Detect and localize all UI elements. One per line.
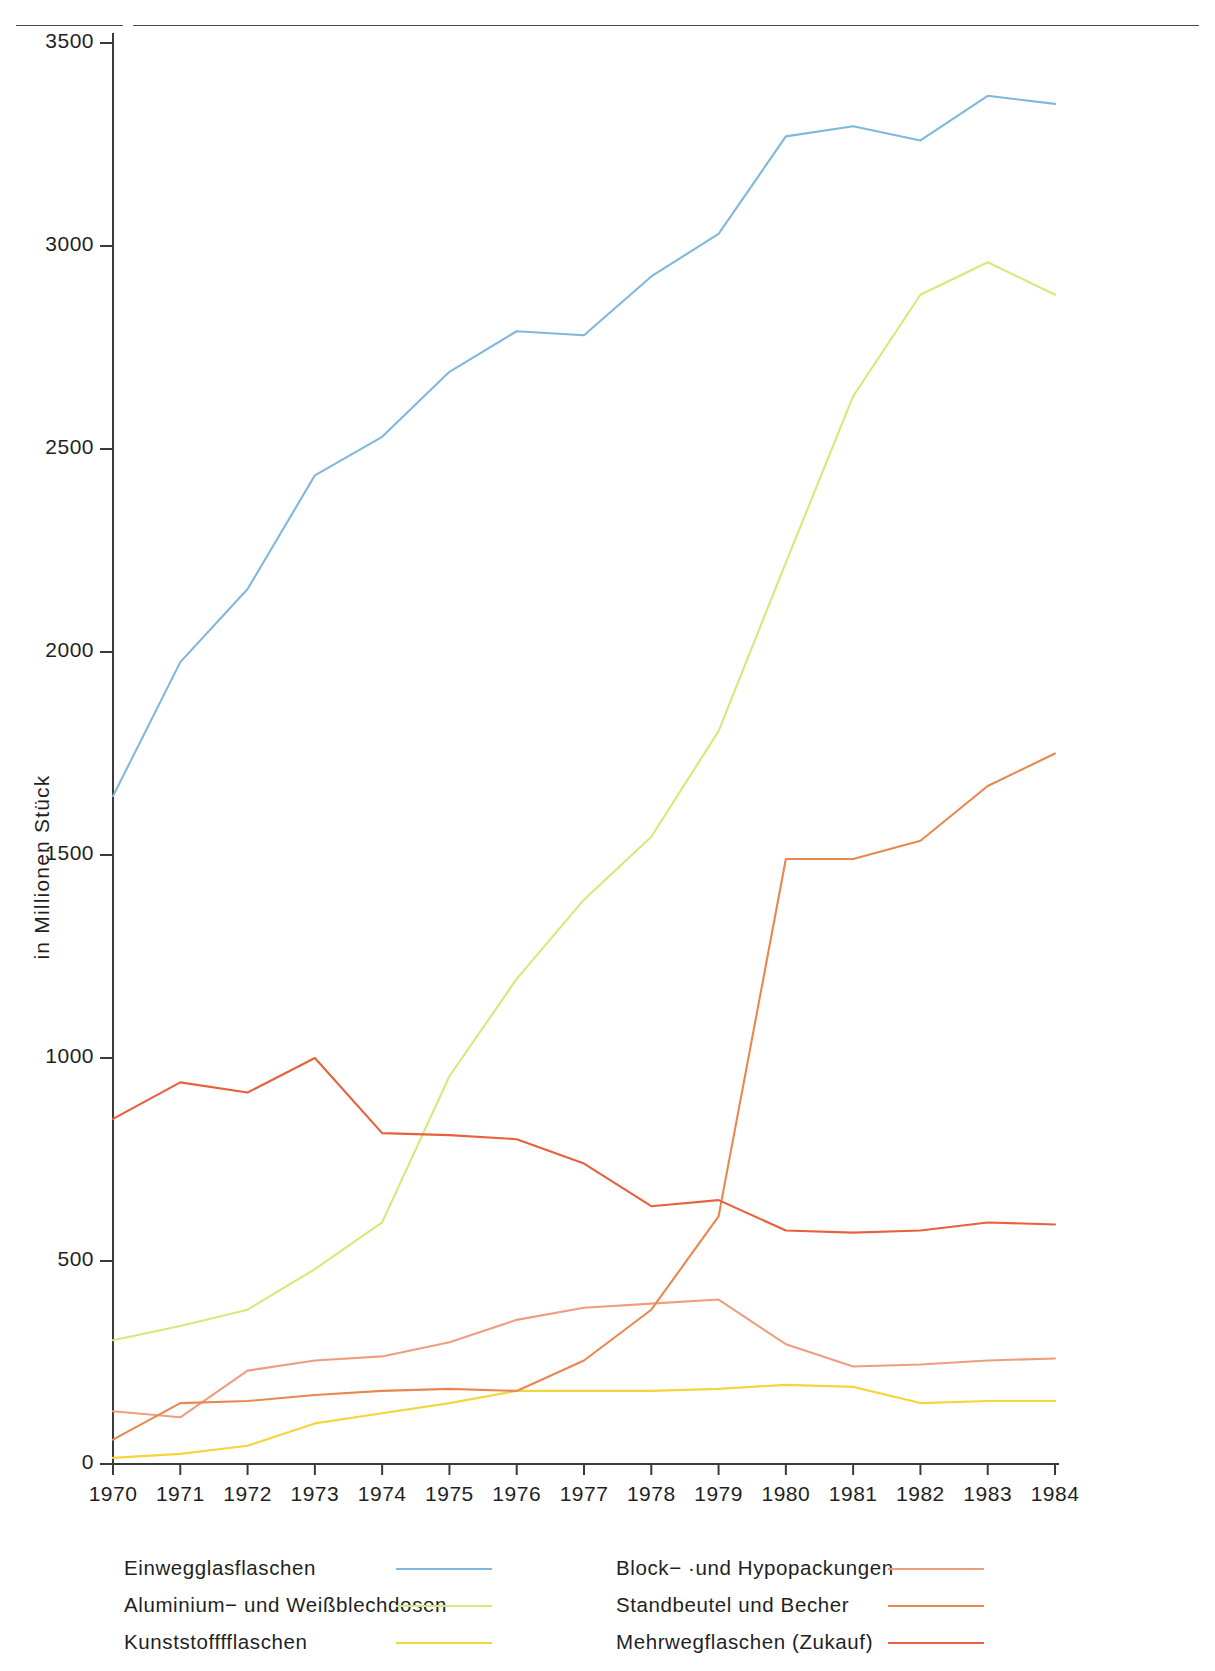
legend-label: Standbeutel und Becher [616,1592,849,1618]
legend-item[interactable]: Kunststofffflaschen [124,1629,544,1666]
y-tick-label: 500 [14,1247,94,1271]
legend-color-swatch [888,1568,984,1570]
legend-item[interactable]: Aluminium− und Weißblechdosen [124,1592,544,1629]
series-line [113,96,1055,796]
y-tick-label: 1500 [14,841,94,865]
y-tick-label: 1000 [14,1044,94,1068]
series-line [113,262,1055,1340]
y-tick-label: 3000 [14,232,94,256]
legend-item[interactable]: Standbeutel und Becher [616,1592,1036,1629]
y-tick-label: 0 [14,1450,94,1474]
legend-label: Einwegglasflaschen [124,1555,316,1581]
line-chart: in Millionen Stück 050010001500200025003… [0,0,1215,1671]
legend-color-swatch [888,1642,984,1644]
legend-color-swatch [888,1605,984,1607]
legend-column-left: EinwegglasflaschenAluminium− und Weißble… [124,1555,544,1666]
y-tick-label: 2500 [14,435,94,459]
y-tick-label: 3500 [14,29,94,53]
axis-lines [113,33,1059,1464]
legend-label: Mehrwegflaschen (Zukauf) [616,1629,873,1655]
y-tick-label: 2000 [14,638,94,662]
legend-column-right: Block− ·und HypopackungenStandbeutel und… [616,1555,1036,1666]
legend-item[interactable]: Einwegglasflaschen [124,1555,544,1592]
tick-marks [100,43,1055,1475]
x-tick-label: 1984 [1015,1482,1095,1506]
legend-label: Block− ·und Hypopackungen [616,1555,894,1581]
series-line [113,1385,1055,1458]
series-line [113,754,1055,1440]
legend-label: Kunststofffflaschen [124,1629,308,1655]
legend-item[interactable]: Mehrwegflaschen (Zukauf) [616,1629,1036,1666]
series-line [113,1058,1055,1233]
series-lines [113,96,1055,1458]
legend-color-swatch [396,1568,492,1570]
legend-color-swatch [396,1642,492,1644]
chart-legend: EinwegglasflaschenAluminium− und Weißble… [0,1555,1215,1665]
legend-color-swatch [396,1605,492,1607]
legend-item[interactable]: Block− ·und Hypopackungen [616,1555,1036,1592]
y-axis-title: in Millionen Stück [30,707,54,1027]
plot-canvas [0,0,1215,1671]
